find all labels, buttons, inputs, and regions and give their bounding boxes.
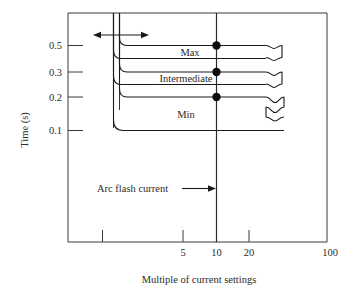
y-axis-tick-labels: 0.5 0.3 0.2 0.1 [49, 40, 62, 136]
x-axis-tick-labels: 5 10 20 100 [180, 247, 338, 258]
x-tick-label-5: 5 [180, 247, 185, 258]
y-tick-label-0_5: 0.5 [49, 40, 62, 51]
max-band-upper-curve [120, 13, 267, 46]
marker-intermediate [212, 68, 220, 76]
axis-titles: Time (s) Multiple of current settings [19, 112, 256, 285]
y-axis-title: Time (s) [19, 112, 31, 148]
time-current-curve-chart: 0.5 0.3 0.2 0.1 5 10 20 100 [0, 0, 348, 297]
intermediate-band-break-squiggle [266, 72, 282, 88]
x-tick-label-100: 100 [322, 247, 338, 258]
band-label-min: Min [177, 109, 195, 120]
y-tick-label-0_3: 0.3 [49, 67, 62, 78]
y-axis-ticks [68, 46, 83, 131]
arc-flash-current-annotation: Arc flash current [97, 183, 216, 194]
y-tick-label-0_1: 0.1 [49, 125, 62, 136]
band-label-max: Max [180, 47, 200, 58]
pickup-range-arrow [93, 32, 149, 38]
x-axis-title: Multiple of current settings [142, 274, 257, 285]
x-tick-label-10: 10 [211, 247, 222, 258]
max-band-break-squiggle [266, 46, 282, 61]
pickup-range-arrow-head-right [141, 32, 149, 38]
band-label-intermediate: Intermediate [159, 73, 212, 84]
y-tick-label-0_2: 0.2 [49, 92, 62, 103]
x-axis-ticks [103, 227, 250, 242]
arc-flash-current-label: Arc flash current [97, 183, 168, 194]
intermediate-band-upper-curve [120, 13, 267, 72]
pickup-range-arrow-head-left [93, 32, 101, 38]
marker-min [212, 93, 220, 101]
arc-flash-arrow-head [208, 185, 216, 191]
min-band-break-squiggle [266, 97, 284, 121]
x-tick-label-20: 20 [244, 247, 255, 258]
chart-figure: 0.5 0.3 0.2 0.1 5 10 20 100 [0, 0, 348, 297]
marker-max [212, 41, 220, 49]
pickup-reference-lines [114, 13, 120, 128]
